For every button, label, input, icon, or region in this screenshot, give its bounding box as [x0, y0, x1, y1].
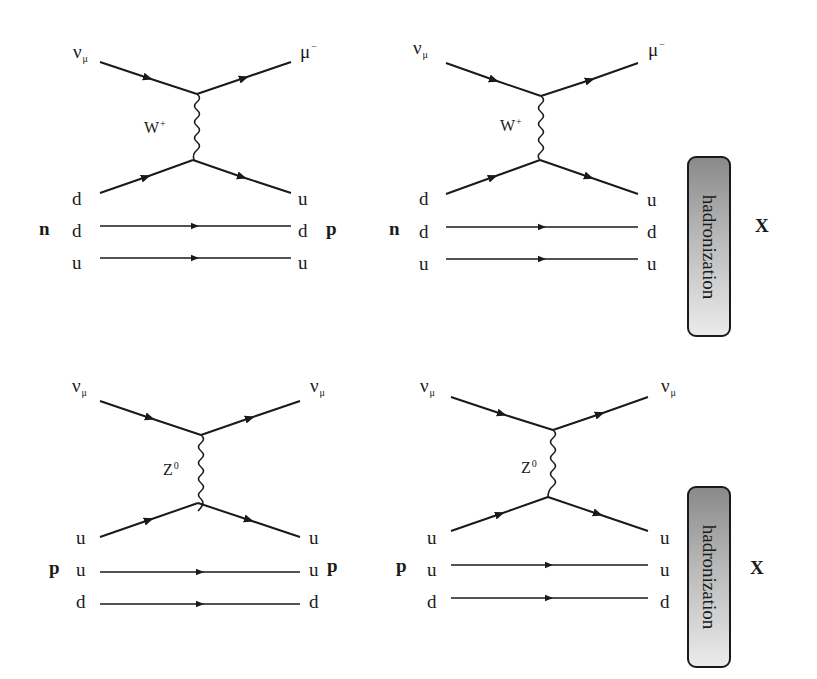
diagram-nc-quark-lines [100, 401, 300, 604]
boson-label: Z0 [163, 461, 179, 478]
right-quark-2: d [647, 222, 657, 241]
hadronization-box: hadronization [687, 486, 731, 668]
final-state-label: X [750, 558, 764, 577]
hadronization-label: hadronization [698, 525, 720, 629]
boson-label: W+ [144, 119, 166, 136]
left-quark-3: d [427, 592, 437, 611]
right-quark-2: u [309, 560, 319, 579]
incoming-lepton-label: νμ [72, 376, 87, 398]
right-quark-2: u [660, 560, 670, 579]
right-quark-1: u [309, 528, 319, 547]
incoming-hadron-label: n [389, 219, 400, 238]
boson-label: Z0 [521, 459, 537, 476]
left-quark-3: d [76, 592, 86, 611]
outgoing-lepton-label: νμ [310, 376, 325, 398]
left-quark-3: u [72, 253, 82, 272]
outgoing-hadron-label: p [326, 219, 337, 238]
boson-label: W+ [500, 117, 522, 134]
outgoing-lepton-label: νμ [661, 376, 676, 398]
incoming-hadron-label: p [396, 556, 407, 575]
incoming-hadron-label: p [49, 558, 60, 577]
left-quark-2: d [72, 221, 82, 240]
diagram-cc-quark-lines [100, 62, 291, 258]
feynman-diagram-figure: νμ μ− W+ d d u n u d u p νμ μ− W+ d d u … [0, 0, 817, 679]
incoming-lepton-label: νμ [413, 38, 428, 60]
right-quark-3: d [309, 592, 319, 611]
left-quark-1: d [72, 189, 82, 208]
diagram-nc-hadronization-lines [451, 397, 648, 598]
left-quark-2: d [419, 222, 429, 241]
hadronization-box: hadronization [687, 156, 731, 337]
right-quark-1: u [647, 190, 657, 209]
left-quark-1: u [76, 528, 86, 547]
right-quark-1: u [660, 528, 670, 547]
left-quark-2: u [76, 560, 86, 579]
final-state-label: X [755, 216, 769, 235]
right-quark-1: u [298, 189, 308, 208]
diagram-cc-hadronization-lines [446, 63, 638, 259]
incoming-hadron-label: n [39, 219, 50, 238]
left-quark-1: u [427, 528, 437, 547]
left-quark-3: u [419, 254, 429, 273]
right-quark-3: d [660, 592, 670, 611]
hadronization-label: hadronization [698, 194, 720, 298]
right-quark-2: d [298, 221, 308, 240]
incoming-lepton-label: νμ [420, 376, 435, 398]
right-quark-3: u [298, 253, 308, 272]
left-quark-2: u [427, 560, 437, 579]
incoming-lepton-label: νμ [73, 42, 88, 64]
right-quark-3: u [647, 254, 657, 273]
outgoing-lepton-label: μ− [300, 42, 317, 61]
left-quark-1: d [419, 189, 429, 208]
outgoing-lepton-label: μ− [648, 40, 665, 59]
outgoing-hadron-label: p [327, 556, 338, 575]
